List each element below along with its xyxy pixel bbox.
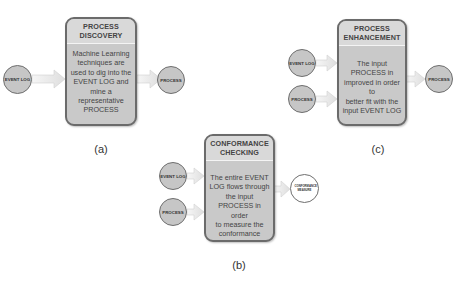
node-label: CONFORMANCE MEASURE xyxy=(295,185,315,192)
caption-b: (b) xyxy=(219,259,259,271)
node-b-conformance-measure: CONFORMANCE MEASURE xyxy=(290,174,319,203)
arrow-b-in-process xyxy=(187,204,204,220)
diagram-canvas: EVENT LOG PROCESS DISCOVERY Machine Lear… xyxy=(0,0,468,286)
node-a-event-log: EVENT LOG xyxy=(3,65,32,94)
node-c-event-log: EVENT LOG xyxy=(288,49,316,77)
caption-a: (a) xyxy=(81,143,121,155)
node-label: PROCESS xyxy=(428,77,449,82)
node-label: PROCESS xyxy=(160,78,181,83)
box-description: The entire EVENT LOG flows through the i… xyxy=(206,161,273,239)
arrow-a-in xyxy=(32,70,65,88)
process-enhancement-box: PROCESS ENHANCEMENT The input PROCESS in… xyxy=(337,19,407,126)
node-label: EVENT LOG xyxy=(160,174,185,179)
node-label: PROCESS xyxy=(291,97,312,102)
node-label: EVENT LOG xyxy=(5,77,30,82)
box-header: PROCESS DISCOVERY xyxy=(67,19,135,44)
node-label: PROCESS xyxy=(162,210,183,215)
arrow-b-in-event-log xyxy=(187,168,204,184)
node-b-event-log: EVENT LOG xyxy=(159,162,187,190)
arrow-b-out xyxy=(274,181,290,197)
box-description: Machine Learning techniques are used to … xyxy=(67,44,135,115)
arrow-c-out xyxy=(406,71,425,87)
arrow-c-in-process xyxy=(316,91,337,107)
conformance-checking-box: CONFORMANCE CHECKING The entire EVENT LO… xyxy=(204,134,275,242)
box-description: The input PROCESS in improved in order t… xyxy=(339,46,405,115)
arrow-c-in-event-log xyxy=(316,55,337,71)
process-discovery-box: PROCESS DISCOVERY Machine Learning techn… xyxy=(65,17,137,126)
caption-c: (c) xyxy=(358,143,398,155)
box-header: CONFORMANCE CHECKING xyxy=(206,136,273,161)
box-header: PROCESS ENHANCEMENT xyxy=(339,21,405,46)
node-label: EVENT LOG xyxy=(289,61,314,66)
node-a-process-output: PROCESS xyxy=(157,66,185,94)
node-b-process: PROCESS xyxy=(159,198,187,226)
node-c-process: PROCESS xyxy=(288,85,316,113)
node-c-process-output: PROCESS xyxy=(425,65,453,93)
